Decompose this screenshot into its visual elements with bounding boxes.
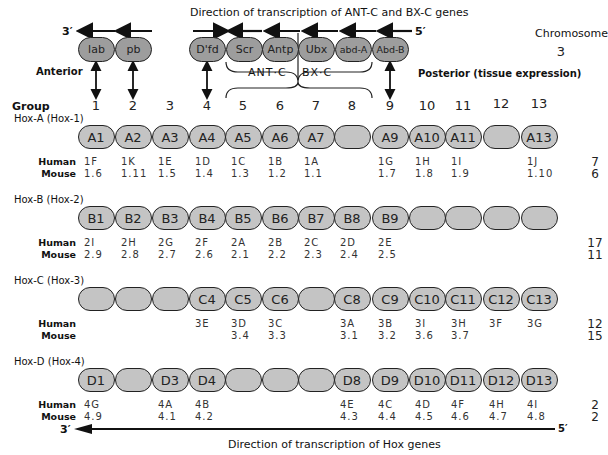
group-number: 11 [448, 98, 478, 113]
gene-d8: D8 [334, 368, 371, 392]
group-number: 13 [524, 96, 554, 111]
gene-empty-slot [115, 368, 152, 392]
mouse-row-label: Mouse [16, 411, 76, 422]
mouse-gene-code: 4.1 [158, 411, 177, 422]
human-row-label: Human [16, 318, 76, 329]
gene-a13: A13 [521, 125, 558, 149]
hox-3prime-label: 3′ [60, 423, 71, 436]
group-label: Group [12, 100, 50, 113]
human-gene-code: 3E [195, 318, 210, 329]
human-gene-code: 3A [340, 318, 355, 329]
human-gene-code: 1I [451, 156, 462, 167]
chromosome-mouse: 15 [585, 329, 605, 343]
fly-gene-abd-b: Abd-B [372, 37, 409, 62]
cluster-label: Hox-A (Hox-1) [14, 113, 84, 124]
gene-empty-slot [445, 206, 482, 230]
human-gene-code: 2I [84, 237, 95, 248]
chromosome-mouse: 11 [585, 248, 605, 262]
gene-d13: D13 [521, 368, 558, 392]
human-gene-code: 2H [121, 237, 137, 248]
group-number: 6 [265, 98, 295, 113]
gene-d4: D4 [189, 368, 226, 392]
gene-b9: B9 [372, 206, 409, 230]
human-gene-code: 4B [195, 399, 210, 410]
mouse-gene-code: 2.5 [378, 249, 397, 260]
bx-c-label: BX·C [302, 66, 332, 79]
gene-a2: A2 [115, 125, 152, 149]
mouse-gene-code: 1.2 [268, 168, 287, 179]
human-gene-code: 4D [415, 399, 431, 410]
human-gene-code: 3C [268, 318, 283, 329]
fly-gene-dfd: D'fd [189, 37, 226, 62]
fly-gene-lab: lab [78, 37, 115, 62]
gene-d10: D10 [409, 368, 446, 392]
gene-a4: A4 [189, 125, 226, 149]
human-gene-code: 3F [489, 318, 503, 329]
gene-b1: B1 [78, 206, 115, 230]
gene-d3: D3 [152, 368, 189, 392]
homology-arrows [92, 62, 394, 98]
mouse-gene-code: 1.11 [121, 168, 147, 179]
gene-a6: A6 [262, 125, 299, 149]
human-gene-code: 1J [527, 156, 538, 167]
mouse-gene-code: 2.8 [121, 249, 140, 260]
mouse-gene-code: 1.10 [527, 168, 553, 179]
mouse-gene-code: 1.1 [304, 168, 323, 179]
group-number: 1 [81, 98, 111, 113]
mouse-gene-code: 1.5 [158, 168, 177, 179]
gene-d12: D12 [483, 368, 520, 392]
fly-gene-antp: Antp [262, 37, 299, 62]
hox-5prime-label: 5′ [558, 423, 568, 434]
human-gene-code: 4A [158, 399, 173, 410]
group-number: 2 [118, 98, 148, 113]
gene-c13: C13 [521, 287, 558, 311]
gene-a7: A7 [298, 125, 335, 149]
mouse-gene-code: 1.4 [195, 168, 214, 179]
gene-empty-slot [298, 368, 335, 392]
mouse-gene-code: 2.2 [268, 249, 287, 260]
human-gene-code: 2B [268, 237, 283, 248]
mouse-gene-code: 3.3 [268, 330, 287, 341]
mouse-gene-code: 1.3 [231, 168, 250, 179]
human-gene-code: 2A [231, 237, 246, 248]
fly-gene-ubx: Ubx [298, 37, 335, 62]
mouse-gene-code: 3.2 [378, 330, 397, 341]
cluster-label: Hox-C (Hox-3) [14, 275, 84, 286]
gene-empty-slot [298, 287, 335, 311]
anterior-label: Anterior [36, 66, 83, 77]
human-gene-code: 1D [195, 156, 211, 167]
gene-empty-slot [115, 287, 152, 311]
gene-c12: C12 [483, 287, 520, 311]
fly-gene-pb: pb [115, 37, 152, 62]
human-gene-code: 4F [451, 399, 465, 410]
gene-c5: C5 [225, 287, 262, 311]
mouse-gene-code: 4.6 [451, 411, 470, 422]
hox-transcription-arrow [74, 424, 555, 434]
gene-c6: C6 [262, 287, 299, 311]
mouse-row-label: Mouse [16, 168, 76, 179]
human-gene-code: 1F [84, 156, 98, 167]
gene-a9: A9 [372, 125, 409, 149]
mouse-gene-code: 4.4 [378, 411, 397, 422]
human-gene-code: 1C [231, 156, 246, 167]
human-gene-code: 1B [268, 156, 283, 167]
human-gene-code: 2D [340, 237, 356, 248]
gene-b3: B3 [152, 206, 189, 230]
group-number: 4 [192, 98, 222, 113]
gene-empty-slot [262, 368, 299, 392]
group-number: 12 [486, 96, 516, 111]
mouse-gene-code: 4.9 [84, 411, 103, 422]
human-gene-code: 4E [340, 399, 355, 410]
human-gene-code: 1A [304, 156, 319, 167]
mouse-gene-code: 1.7 [378, 168, 397, 179]
human-gene-code: 4I [527, 399, 538, 410]
gene-empty-slot [483, 125, 520, 149]
mouse-gene-code: 4.8 [527, 411, 546, 422]
mouse-gene-code: 2.7 [158, 249, 177, 260]
human-gene-code: 3B [378, 318, 393, 329]
mouse-row-label: Mouse [16, 330, 76, 341]
chromosome-mouse: 6 [585, 167, 605, 181]
gene-b2: B2 [115, 206, 152, 230]
gene-a5: A5 [225, 125, 262, 149]
human-gene-code: 2E [378, 237, 393, 248]
